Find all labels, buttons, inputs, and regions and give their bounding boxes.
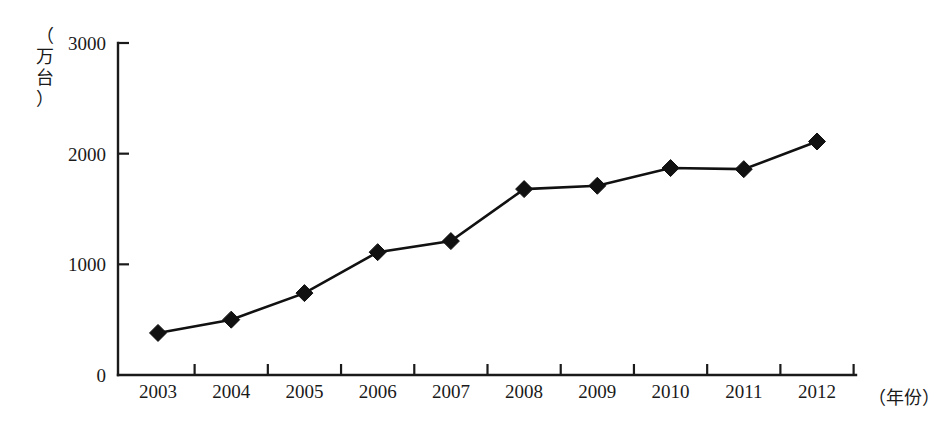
data-series <box>158 141 817 332</box>
y-tick-label: 2000 <box>68 144 106 165</box>
x-tick-label: 2012 <box>798 381 836 402</box>
y-tick-label: 3000 <box>68 33 106 54</box>
y-tick-label: 0 <box>97 365 107 386</box>
x-tick-label: 2011 <box>725 381 762 402</box>
x-tick-label: 2004 <box>212 381 251 402</box>
data-point-marker <box>223 311 240 328</box>
data-markers <box>150 133 826 341</box>
data-point-marker <box>516 181 533 198</box>
x-tick-label: 2007 <box>432 381 470 402</box>
x-tick-label: 2003 <box>139 381 177 402</box>
data-point-marker <box>296 285 313 302</box>
chart-plot-area: 0100020003000 20032004200520062007200820… <box>0 0 951 438</box>
x-tick-labels: 2003200420052006200720082009201020112012 <box>139 381 836 402</box>
data-point-marker <box>662 160 679 177</box>
data-point-marker <box>735 161 752 178</box>
y-axis <box>118 43 129 375</box>
data-point-marker <box>150 324 167 341</box>
line-chart: （ 万 台 ） （年份） 0100020003000 2003200420052… <box>0 0 951 438</box>
data-point-marker <box>369 244 386 261</box>
data-point-marker <box>809 133 826 150</box>
data-point-marker <box>442 233 459 250</box>
x-tick-label: 2006 <box>359 381 397 402</box>
x-tick-label: 2008 <box>505 381 543 402</box>
y-tick-labels: 0100020003000 <box>68 33 106 386</box>
y-tick-label: 1000 <box>68 254 106 275</box>
x-tick-label: 2005 <box>285 381 323 402</box>
x-tick-label: 2009 <box>578 381 616 402</box>
data-point-marker <box>589 177 606 194</box>
series-line <box>158 141 817 332</box>
x-axis <box>118 364 856 375</box>
x-tick-label: 2010 <box>652 381 690 402</box>
